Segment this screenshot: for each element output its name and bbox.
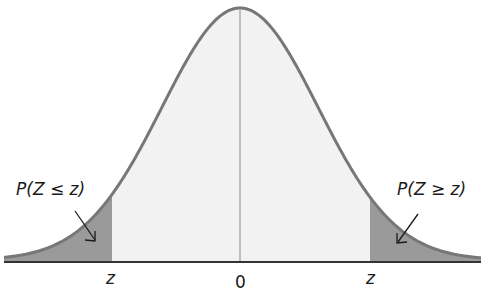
normal-curve-diagram: P(Z ≤ z) P(Z ≥ z) z 0 z <box>0 0 488 300</box>
right-z-label: z <box>365 268 376 288</box>
left-tail-area <box>4 194 112 262</box>
left-probability-label: P(Z ≤ z) <box>16 179 85 199</box>
right-tail-area <box>370 197 481 262</box>
right-probability-label: P(Z ≥ z) <box>397 179 466 199</box>
left-z-label: z <box>105 268 116 288</box>
zero-label: 0 <box>235 272 246 292</box>
